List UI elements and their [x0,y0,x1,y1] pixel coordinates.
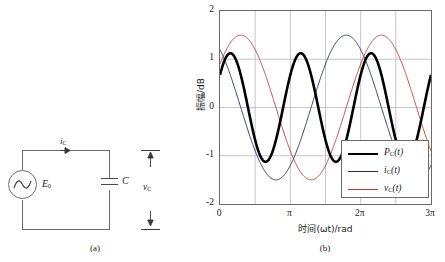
current-label: iC [60,136,67,146]
capacitor-plate-top [101,178,118,179]
current-arrow-right-icon [58,146,74,155]
voltage-terminal-bottom [141,229,160,230]
source-label: E0 [42,178,51,189]
wire-left-upper [22,150,23,170]
y-tick-label: 1 [176,52,214,62]
legend-label: PC(t) [384,147,403,157]
wire-right-lower [109,190,110,230]
chart-legend[interactable]: PC(t)iC(t)vC(t) [341,140,429,198]
legend-label: vC(t) [384,183,402,193]
legend-swatch [348,153,378,155]
legend-label: iC(t) [384,165,400,175]
legend-item[interactable]: PC(t) [342,145,430,163]
wire-right-upper [109,150,110,178]
legend-swatch [348,171,378,172]
x-tick-label: π [269,208,309,218]
x-tick-label: 0 [199,208,239,218]
legend-item[interactable]: vC(t) [342,181,430,199]
capacitor-plate-bottom [101,184,118,185]
capacitor-label: C [122,175,129,186]
x-tick-label: 3π [410,208,445,218]
voltage-arrow-up-icon [146,150,155,168]
y-tick-label: 0 [176,101,214,111]
y-tick-label: 2 [176,4,214,14]
wire-bottom [22,229,110,230]
wire-left-lower [22,200,23,230]
y-tick-label: -1 [176,149,214,159]
legend-item[interactable]: iC(t) [342,163,430,181]
x-tick-label: 2π [340,208,380,218]
chart-panel: 振幅/dB 时间(ωt)/rad -2-1012 0π2π3π PC(t)iC(… [180,0,445,262]
voltage-arrow-down-icon [146,210,155,228]
x-axis-label: 时间(ωt)/rad [219,222,432,235]
legend-swatch [348,189,378,190]
voltage-label: vC [143,182,151,192]
panel-b-caption: (b) [305,243,345,253]
y-axis-label: 振幅/dB [194,59,207,131]
figure-root: E0 C iC vC (a) 振幅/dB 时间(ωt)/rad [0,0,445,262]
panel-a-caption: (a) [75,243,115,253]
y-tick-label: -2 [176,197,214,207]
ac-voltage-source-icon [8,170,37,199]
